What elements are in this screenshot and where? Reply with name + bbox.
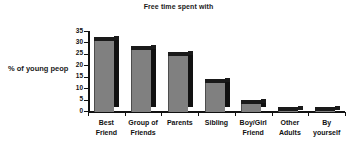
bar-front-face <box>315 111 335 112</box>
bar-top-face <box>168 52 188 56</box>
y-axis-tick-label: 5 <box>79 95 83 102</box>
bar-top-face <box>131 46 151 50</box>
bar-top-side-face <box>261 99 266 103</box>
bar <box>315 106 335 112</box>
bar-top-side-face <box>335 106 340 110</box>
x-axis-tick <box>235 112 236 116</box>
y-axis-label: % of young peop <box>8 64 78 73</box>
bar-top-side-face <box>298 106 303 110</box>
x-axis-tick <box>308 112 309 116</box>
y-axis-tick: 25 <box>84 54 88 55</box>
x-axis-tick <box>345 112 346 116</box>
y-axis-tick-label: 25 <box>76 49 83 56</box>
bar-top-side-face <box>114 36 119 40</box>
bar-top-side-face <box>225 78 230 82</box>
bar <box>241 99 261 111</box>
chart-title: Free time spent with <box>0 3 357 10</box>
bar-top-side-face <box>188 51 193 55</box>
y-axis-tick: 10 <box>84 88 88 89</box>
bar-top-face <box>205 79 225 83</box>
bar-front-face <box>131 50 151 112</box>
bar <box>168 51 188 112</box>
bar <box>205 78 225 112</box>
y-axis-tick-label: 0 <box>79 107 83 114</box>
bar-front-face <box>168 56 188 112</box>
x-axis-tick <box>88 112 89 116</box>
bar <box>131 45 151 112</box>
y-axis-tick-label: 10 <box>76 84 83 91</box>
bar-top-face <box>241 100 261 104</box>
x-axis-category-line: Friends <box>121 128 166 138</box>
y-axis-tick: 30 <box>84 42 88 43</box>
x-axis-tick <box>272 112 273 116</box>
bar-front-face <box>278 111 298 112</box>
y-axis-tick: 5 <box>84 100 88 101</box>
x-axis-tick <box>161 112 162 116</box>
bar-front-face <box>94 41 114 112</box>
bar-side-face <box>151 45 156 107</box>
y-axis-tick-label: 30 <box>76 38 83 45</box>
bar-side-face <box>114 36 119 107</box>
bar-side-face <box>225 78 230 107</box>
bar-top-face <box>278 107 298 111</box>
bar-top-face <box>94 37 114 41</box>
bar <box>278 106 298 112</box>
bar-top-side-face <box>151 45 156 49</box>
bar <box>94 36 114 112</box>
y-axis-tick-label: 35 <box>76 27 83 34</box>
x-axis-tick <box>198 112 199 116</box>
y-axis-line <box>88 31 90 112</box>
y-axis-tick: 35 <box>84 31 88 32</box>
bar-top-face <box>315 107 335 111</box>
y-axis-tick-label: 20 <box>76 61 83 68</box>
bar-side-face <box>188 51 193 107</box>
y-axis-tick: 15 <box>84 77 88 78</box>
x-axis-category-label: Byyourself <box>304 118 349 137</box>
plot-area: 05101520253035 BestFriendGroup ofFriends… <box>88 26 345 116</box>
y-axis-tick-label: 15 <box>76 72 83 79</box>
x-axis-category-line: By <box>304 118 349 128</box>
x-axis-category-line: yourself <box>304 128 349 138</box>
bar-front-face <box>241 104 261 111</box>
x-axis-tick <box>125 112 126 116</box>
chart-page: Free time spent with % of young peop 051… <box>0 0 357 142</box>
bar-front-face <box>205 83 225 112</box>
y-axis-tick: 20 <box>84 65 88 66</box>
